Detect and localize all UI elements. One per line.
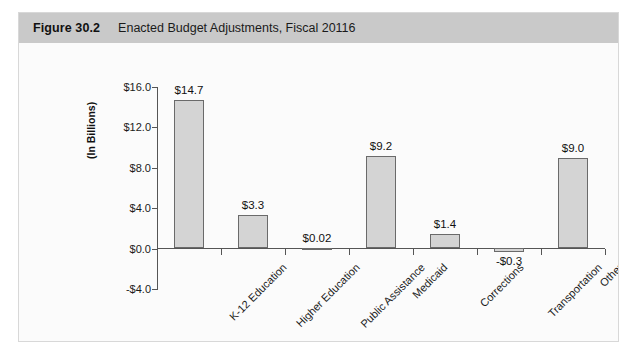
bar-value-label: $0.02 xyxy=(303,232,332,244)
y-tick-mark xyxy=(152,168,158,169)
bar xyxy=(558,158,588,248)
y-tick-mark xyxy=(152,208,158,209)
x-tick-mark xyxy=(157,249,158,255)
x-axis-zero-line xyxy=(157,248,605,249)
y-tick-mark xyxy=(152,87,158,88)
x-category-label: Corrections xyxy=(477,261,525,309)
y-tick-mark xyxy=(152,289,158,290)
chart-plot-area: (In Billions) $16.0$12.0$8.0$4.0$0.0-$4.… xyxy=(19,43,619,342)
y-tick-label: $4.0 xyxy=(95,202,151,214)
figure-header-band: Figure 30.2 Enacted Budget Adjustments, … xyxy=(19,13,618,43)
bar-value-label: $14.7 xyxy=(175,84,204,96)
bar-value-label: $1.4 xyxy=(434,218,456,230)
x-category-label: Higher Education xyxy=(294,261,362,329)
bar xyxy=(302,248,332,250)
y-axis-line xyxy=(157,87,158,289)
y-tick-label: -$4.0 xyxy=(95,283,151,295)
figure-frame: Figure 30.2 Enacted Budget Adjustments, … xyxy=(18,12,619,342)
x-tick-mark xyxy=(221,249,222,255)
figure-title: Enacted Budget Adjustments, Fiscal 20116 xyxy=(118,21,355,35)
bar xyxy=(366,156,396,248)
bar xyxy=(494,248,524,252)
bar-value-label: $3.3 xyxy=(242,199,264,211)
x-tick-mark xyxy=(349,249,350,255)
y-tick-mark xyxy=(152,127,158,128)
bar xyxy=(174,100,204,248)
y-axis-title: (In Billions) xyxy=(85,145,97,159)
x-category-label: Transportation xyxy=(546,261,604,319)
y-tick-label: $0.0 xyxy=(95,243,151,255)
bar-value-label: $9.2 xyxy=(370,140,392,152)
x-tick-mark xyxy=(285,249,286,255)
figure-number: Figure 30.2 xyxy=(33,21,100,35)
y-tick-label: $16.0 xyxy=(95,81,151,93)
bar xyxy=(238,215,268,248)
x-category-label: K-12 Education xyxy=(227,261,289,323)
bar xyxy=(430,234,460,248)
x-tick-mark xyxy=(541,249,542,255)
x-tick-mark xyxy=(477,249,478,255)
bar-value-label: $9.0 xyxy=(562,142,584,154)
y-tick-label: $12.0 xyxy=(95,121,151,133)
x-tick-mark xyxy=(413,249,414,255)
y-tick-label: $8.0 xyxy=(95,162,151,174)
x-tick-mark xyxy=(605,249,606,255)
